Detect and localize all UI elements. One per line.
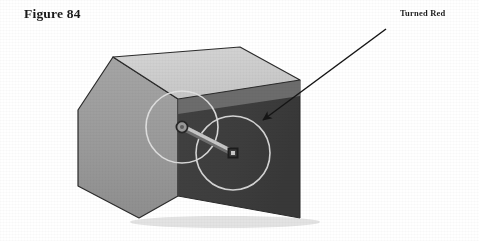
box-shadow bbox=[130, 216, 320, 228]
figure-illustration bbox=[0, 0, 479, 241]
figure-page: Figure 84 Turned Red bbox=[0, 0, 479, 241]
callout-label: Turned Red bbox=[400, 8, 445, 18]
pivot-ring-marker-inner bbox=[180, 125, 184, 129]
figure-title: Figure 84 bbox=[24, 6, 81, 22]
square-marker-inner bbox=[231, 151, 235, 155]
